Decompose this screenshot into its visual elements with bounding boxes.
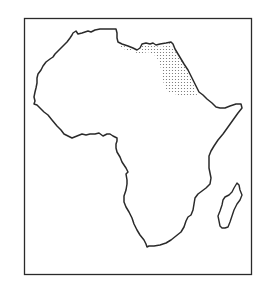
highlighted-region [118, 43, 197, 97]
madagascar-outline [218, 183, 242, 228]
africa-map [0, 0, 267, 292]
map-border [25, 19, 252, 275]
africa-coastline [34, 29, 242, 247]
